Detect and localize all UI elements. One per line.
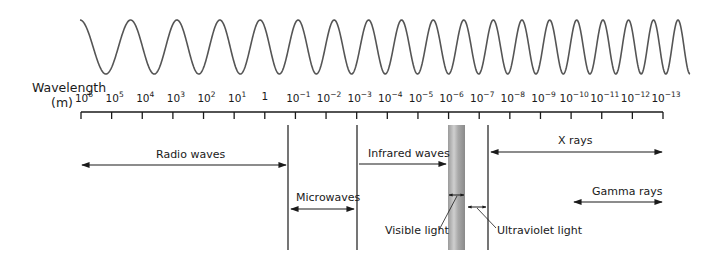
axis-tick-label: 10−5 xyxy=(409,90,433,104)
ultraviolet-leader xyxy=(477,208,496,228)
axis-title-unit: (m) xyxy=(51,95,73,110)
axis-tick-label: 102 xyxy=(197,90,215,104)
axis-tick-label: 10−9 xyxy=(531,90,555,104)
axis-tick-label: 105 xyxy=(106,90,124,104)
axis-tick-label: 10−11 xyxy=(590,90,619,104)
axis-tick-label: 104 xyxy=(136,90,154,104)
microwaves-label: Microwaves xyxy=(296,191,360,204)
axis-tick-label: 106 xyxy=(75,90,93,104)
axis-tick-label: 10−13 xyxy=(651,90,680,104)
wave-illustration xyxy=(80,20,690,74)
axis-tick-label: 10−10 xyxy=(559,90,588,104)
ultraviolet-light-label: Ultraviolet light xyxy=(497,224,582,237)
axis-tick-label: 103 xyxy=(167,90,185,104)
axis-tick-label: 10−8 xyxy=(501,90,525,104)
em-spectrum-diagram: Wavelength (m) 106105104103102101110−110… xyxy=(0,0,705,265)
gamma-rays-label: Gamma rays xyxy=(592,185,662,198)
axis-tick-label: 10−6 xyxy=(439,90,463,104)
axis-tick-label: 10−3 xyxy=(347,90,371,104)
xrays-label: X rays xyxy=(558,134,593,147)
axis-title-wavelength: Wavelength xyxy=(32,80,106,95)
axis-tick-label: 10−7 xyxy=(470,90,494,104)
axis-tick-label: 1 xyxy=(261,90,268,102)
infrared-waves-label: Infrared waves xyxy=(368,147,450,160)
axis-tick-label: 10−4 xyxy=(378,90,402,104)
diagram-canvas xyxy=(0,0,705,265)
wavelength-axis xyxy=(81,112,663,119)
visible-light-bar xyxy=(448,125,465,250)
axis-tick-label: 10−2 xyxy=(317,90,341,104)
radio-waves-label: Radio waves xyxy=(156,148,225,161)
axis-tick-label: 101 xyxy=(228,90,246,104)
axis-tick-label: 10−1 xyxy=(286,90,310,104)
axis-tick-label: 10−12 xyxy=(621,90,650,104)
visible-light-label: Visible light xyxy=(385,224,449,237)
